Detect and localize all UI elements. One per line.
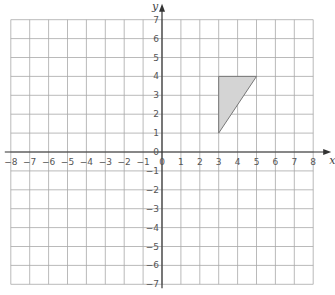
- y-tick-label: 0: [153, 147, 159, 157]
- y-tick-label: −1: [146, 166, 159, 176]
- x-tick-label: 8: [310, 157, 316, 167]
- x-tick-label: 5: [254, 157, 260, 167]
- tick-labels: xy−8−7−6−5−4−3−2−112345678−7−6−5−4−3−2−1…: [4, 0, 335, 289]
- x-tick-label: −3: [99, 157, 112, 167]
- axes: [5, 4, 331, 289]
- y-tick-label: 3: [153, 90, 159, 100]
- x-tick-label: 6: [273, 157, 279, 167]
- x-tick-label: 4: [235, 157, 241, 167]
- x-tick-label: −6: [42, 157, 56, 167]
- y-tick-label: −3: [146, 204, 159, 214]
- coordinate-grid: xy−8−7−6−5−4−3−2−112345678−7−6−5−4−3−2−1…: [0, 0, 335, 295]
- y-tick-label: −4: [146, 223, 160, 233]
- y-tick-label: 2: [153, 109, 159, 119]
- y-tick-label: 4: [153, 71, 159, 81]
- x-tick-label: 3: [216, 157, 222, 167]
- y-axis-label: y: [151, 0, 159, 13]
- x-tick-label: 1: [178, 157, 184, 167]
- x-tick-label: 7: [291, 157, 297, 167]
- origin-label: 0: [159, 157, 165, 167]
- y-tick-label: −5: [146, 242, 159, 252]
- x-tick-label: −7: [23, 157, 36, 167]
- x-axis-label: x: [329, 154, 335, 167]
- y-tick-label: 7: [153, 15, 159, 25]
- y-tick-label: 1: [153, 128, 159, 138]
- x-tick-label: −5: [61, 157, 74, 167]
- y-axis-arrow-icon: [159, 4, 165, 12]
- y-tick-label: −6: [146, 260, 160, 270]
- x-tick-label: 2: [197, 157, 203, 167]
- x-tick-label: −4: [80, 157, 94, 167]
- y-tick-label: −2: [146, 185, 159, 195]
- x-tick-label: −2: [118, 157, 131, 167]
- y-tick-label: −7: [146, 279, 159, 289]
- x-tick-label: −8: [4, 157, 18, 167]
- y-tick-label: 5: [153, 53, 159, 63]
- y-tick-label: 6: [153, 34, 159, 44]
